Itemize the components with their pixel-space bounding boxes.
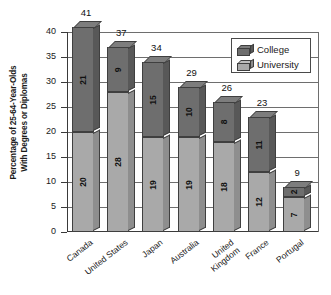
segment-value-label: 2 <box>289 190 299 195</box>
segment-value-label: 11 <box>254 140 264 149</box>
segment-value-label: 28 <box>113 157 123 166</box>
bar-segment-college: 10 <box>178 87 200 137</box>
bar-segment-college: 15 <box>142 62 164 137</box>
bar: 1915 <box>142 62 164 232</box>
bar-segment-university: 18 <box>213 142 235 232</box>
segment-value-label: 8 <box>219 120 229 125</box>
bar-total-label: 34 <box>136 43 176 53</box>
bar: 289 <box>107 47 129 232</box>
y-axis-tick-label: 20 <box>36 127 56 136</box>
segment-value-label: 19 <box>148 180 158 189</box>
legend-label-university: University <box>257 60 299 70</box>
bar: 1910 <box>178 87 200 232</box>
bar-total-label: 37 <box>101 28 141 38</box>
bar-total-label: 29 <box>172 68 212 78</box>
y-axis-tick-label: 5 <box>36 202 56 211</box>
stacked-bar-chart: Percentage of 25-64-Year-Olds With Degre… <box>0 0 331 295</box>
y-axis-tick <box>61 107 67 108</box>
legend-swatch-university-icon <box>237 61 252 70</box>
y-axis-tick-label: 40 <box>36 27 56 36</box>
y-axis-tick <box>61 182 67 183</box>
segment-value-label: 7 <box>289 212 299 217</box>
y-axis-title-line-2: With Degrees or Diplomas <box>19 18 30 228</box>
bar: 1211 <box>248 117 270 232</box>
bar-total-label: 9 <box>277 168 317 178</box>
y-axis-tick-label: 15 <box>36 152 56 161</box>
bar-segment-college: 8 <box>213 102 235 142</box>
segment-value-label: 21 <box>78 75 88 84</box>
y-axis-tick <box>61 132 67 133</box>
segment-value-label: 10 <box>184 107 194 116</box>
y-axis-title-line-1: Percentage of 25-64-Year-Olds <box>9 18 20 228</box>
bar-segment-college: 11 <box>248 117 270 172</box>
chart-legend: College University <box>231 38 311 73</box>
segment-value-label: 19 <box>184 180 194 189</box>
bar-total-label: 23 <box>242 98 282 108</box>
bar-segment-college: 21 <box>72 27 94 132</box>
legend-item-college: College <box>236 42 310 57</box>
bar: 2021 <box>72 27 94 232</box>
y-axis-tick <box>61 57 67 58</box>
bar-segment-university: 19 <box>178 137 200 232</box>
segment-value-label: 12 <box>254 197 264 206</box>
y-axis-tick-label: 35 <box>36 52 56 61</box>
bar-segment-university: 7 <box>283 197 305 232</box>
bar-segment-university: 20 <box>72 132 94 232</box>
y-axis-tick <box>61 232 67 233</box>
y-axis-tick-label: 0 <box>36 227 56 236</box>
legend-item-university: University <box>236 57 310 72</box>
y-axis-tick-label: 30 <box>36 77 56 86</box>
y-axis-tick-label: 10 <box>36 177 56 186</box>
bar-segment-college: 2 <box>283 187 305 197</box>
y-axis-tick <box>61 32 67 33</box>
segment-value-label: 18 <box>219 182 229 191</box>
bar-segment-university: 28 <box>107 92 129 232</box>
y-axis-tick <box>61 82 67 83</box>
y-axis-tick-label: 25 <box>36 102 56 111</box>
bar: 72 <box>283 187 305 232</box>
segment-value-label: 20 <box>78 177 88 186</box>
bar-segment-college: 9 <box>107 47 129 92</box>
bar-total-label: 41 <box>66 8 106 18</box>
bar: 188 <box>213 102 235 232</box>
y-axis-title: Percentage of 25-64-Year-Olds With Degre… <box>0 0 34 245</box>
legend-swatch-college-icon <box>237 46 252 55</box>
y-axis-tick <box>61 207 67 208</box>
bar-total-label: 26 <box>207 83 247 93</box>
segment-value-label: 9 <box>113 67 123 72</box>
bar-segment-university: 12 <box>248 172 270 232</box>
bar-segment-university: 19 <box>142 137 164 232</box>
segment-value-label: 15 <box>148 95 158 104</box>
legend-label-college: College <box>257 45 289 55</box>
y-axis-tick <box>61 157 67 158</box>
